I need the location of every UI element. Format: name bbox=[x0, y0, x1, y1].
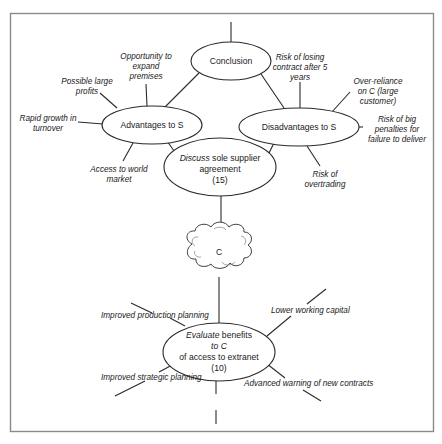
evaluate-line2: to C bbox=[211, 341, 228, 351]
discuss-line2: agreement bbox=[199, 164, 241, 174]
evaluate-leaf-production-planning: Improved production planning bbox=[101, 311, 209, 320]
svg-text:failure to deliver: failure to deliver bbox=[368, 135, 426, 144]
central-cloud-label: C bbox=[216, 247, 222, 257]
svg-text:on C (large: on C (large bbox=[358, 87, 399, 96]
svg-text:penalties for: penalties for bbox=[374, 125, 420, 134]
svg-text:years: years bbox=[289, 73, 310, 82]
advantage-leaf-premises: Opportunity to expand premises bbox=[120, 52, 172, 81]
evaluate-line1: Evaluate benefits bbox=[186, 330, 252, 340]
svg-text:expand: expand bbox=[133, 62, 160, 71]
svg-text:customer): customer) bbox=[360, 97, 397, 106]
disadvantage-leaf-over-reliance: Over-reliance on C (large customer) bbox=[354, 77, 403, 106]
svg-text:market: market bbox=[106, 175, 132, 184]
svg-text:turnover: turnover bbox=[33, 124, 63, 133]
mind-map-diagram: Conclusion Advantages to S Disadvantages… bbox=[0, 0, 442, 444]
advantage-leaf-world-market: Access to world market bbox=[89, 165, 148, 184]
evaluate-line3: of access to extranet bbox=[179, 352, 259, 362]
conclusion-label: Conclusion bbox=[210, 56, 253, 66]
svg-text:contract after 5: contract after 5 bbox=[273, 63, 328, 72]
svg-text:Access to world: Access to world bbox=[89, 165, 148, 174]
discuss-node: Discuss sole supplier agreement (15) bbox=[164, 138, 276, 196]
disadvantage-leaf-penalties: Risk of big penalties for failure to del… bbox=[368, 115, 426, 144]
disadvantage-leaf-overtrading: Risk of overtrading bbox=[305, 170, 346, 189]
svg-text:profits: profits bbox=[75, 87, 98, 96]
advantages-label: Advantages to S bbox=[120, 120, 183, 130]
discuss-line3: (15) bbox=[212, 175, 227, 185]
disadvantages-label: Disadvantages to S bbox=[262, 122, 337, 132]
svg-text:Possible large: Possible large bbox=[61, 77, 113, 86]
svg-text:Risk of losing: Risk of losing bbox=[276, 53, 325, 62]
advantages-node: Advantages to S bbox=[102, 106, 202, 144]
central-cloud-node: C bbox=[187, 222, 252, 268]
evaluate-leaf-advanced-warning: Advanced warning of new contracts bbox=[243, 379, 373, 388]
advantage-leaf-turnover: Rapid growth in turnover bbox=[20, 114, 77, 133]
disadvantage-leaf-losing-contract: Risk of losing contract after 5 years bbox=[273, 53, 328, 82]
svg-text:premises: premises bbox=[128, 72, 162, 81]
svg-text:Risk of: Risk of bbox=[312, 170, 338, 179]
evaluate-line4: (10) bbox=[211, 363, 226, 373]
evaluate-leaf-strategic-planning: Improved strategic planning bbox=[101, 373, 202, 382]
svg-text:Over-reliance: Over-reliance bbox=[354, 77, 403, 86]
conclusion-node: Conclusion bbox=[191, 42, 271, 80]
svg-text:Opportunity to: Opportunity to bbox=[120, 52, 172, 61]
svg-text:overtrading: overtrading bbox=[305, 180, 346, 189]
advantage-leaf-profits: Possible large profits bbox=[61, 77, 113, 96]
evaluate-leaf-working-capital: Lower working capital bbox=[271, 306, 350, 315]
discuss-line1: Discuss sole supplier bbox=[180, 153, 261, 163]
svg-text:Rapid growth in: Rapid growth in bbox=[20, 114, 77, 123]
disadvantages-node: Disadvantages to S bbox=[239, 108, 359, 146]
svg-text:Risk of big: Risk of big bbox=[378, 115, 417, 124]
